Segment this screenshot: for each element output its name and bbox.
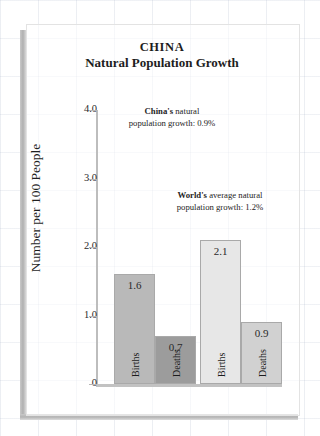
bars-container: 1.6 Births 0.7 Deaths 2.1 Births 0.9 Dea… — [96, 110, 286, 384]
x-axis-line — [96, 384, 282, 387]
y-tick-mark-0 — [89, 384, 97, 385]
bar-china-births[interactable]: 1.6 Births — [114, 274, 155, 384]
bar-value-world-births: 2.1 — [201, 245, 240, 257]
bar-category-china-deaths: Deaths — [169, 325, 183, 377]
bar-category-china-births: Births — [128, 325, 142, 377]
bar-category-world-births: Births — [214, 325, 228, 377]
y-axis-label: Number per 100 People — [28, 108, 44, 308]
bar-world-births[interactable]: 2.1 Births — [200, 240, 241, 384]
bar-category-world-deaths: Deaths — [255, 325, 269, 377]
bar-value-china-births: 1.6 — [115, 279, 154, 291]
bar-china-deaths[interactable]: 0.7 Deaths — [155, 336, 196, 384]
bar-world-deaths[interactable]: 0.9 Deaths — [241, 322, 282, 384]
chart-figure: CHINA Natural Population Growth Number p… — [0, 0, 320, 436]
plot-area: Number per 100 People 4.0 3.0 2.0 1.0 0 … — [0, 0, 320, 436]
